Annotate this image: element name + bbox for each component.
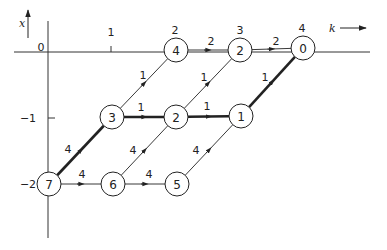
node-n0: 0 bbox=[291, 36, 315, 60]
stage-label: 4 bbox=[299, 22, 306, 35]
edge-weight: 1 bbox=[262, 71, 269, 84]
tick-label: −2 bbox=[20, 178, 36, 191]
edge: 4 bbox=[125, 168, 165, 184]
edge: 1 bbox=[124, 101, 164, 117]
edge: 2 bbox=[188, 35, 228, 50]
node-n2m: 2 bbox=[164, 105, 188, 129]
edge-weight: 1 bbox=[138, 101, 145, 114]
arrow-icon bbox=[142, 150, 145, 153]
stage-label: 3 bbox=[237, 24, 244, 37]
x-axis-label: x bbox=[19, 17, 26, 30]
edge: 1 bbox=[249, 57, 295, 107]
node-label: 2 bbox=[236, 44, 244, 58]
edge-weight: 4 bbox=[146, 168, 153, 181]
node-n1: 1 bbox=[229, 104, 253, 128]
edge: 1 bbox=[188, 100, 229, 117]
edge-weight: 4 bbox=[193, 144, 200, 157]
node-n3: 3 bbox=[100, 105, 124, 129]
edge: 4 bbox=[121, 126, 168, 176]
arrow-icon bbox=[206, 150, 209, 153]
edge-weight: 1 bbox=[204, 100, 211, 113]
edge: 4 bbox=[185, 125, 233, 176]
tick-label: 0 bbox=[38, 41, 45, 54]
arrow-icon bbox=[141, 83, 144, 86]
node-label: 4 bbox=[172, 44, 180, 58]
edge-weight: 4 bbox=[130, 144, 137, 157]
node-n6: 6 bbox=[101, 172, 125, 196]
edge-weight: 1 bbox=[201, 71, 208, 84]
node-label: 0 bbox=[299, 42, 307, 56]
stage-label: 2 bbox=[172, 24, 179, 37]
edge-weight: 2 bbox=[273, 35, 280, 48]
node-label: 3 bbox=[108, 111, 116, 125]
node-label: 7 bbox=[45, 178, 53, 192]
node-label: 5 bbox=[173, 178, 181, 192]
node-n2t: 2 bbox=[228, 38, 252, 62]
edge-weight: 4 bbox=[79, 168, 86, 181]
node-n5: 5 bbox=[165, 172, 189, 196]
node-n4: 4 bbox=[164, 38, 188, 62]
tick-label: −1 bbox=[20, 112, 36, 125]
node-n7: 7 bbox=[37, 172, 61, 196]
edge: 2 bbox=[252, 35, 291, 50]
edge: 4 bbox=[61, 168, 101, 184]
node-label: 6 bbox=[109, 178, 117, 192]
shortest-path-diagram: x k 01−1−2 234 444441111122 765321420 bbox=[0, 0, 387, 250]
stage-labels: 234 bbox=[172, 22, 306, 37]
node-label: 1 bbox=[237, 110, 245, 124]
node-label: 2 bbox=[172, 111, 180, 125]
edge-weight: 2 bbox=[208, 35, 215, 48]
edge-weight: 4 bbox=[65, 143, 72, 156]
tick-label: 1 bbox=[108, 26, 115, 39]
k-axis-label: k bbox=[329, 22, 336, 35]
axes: x k 01−1−2 bbox=[14, 10, 370, 238]
edge-weight: 1 bbox=[140, 69, 147, 82]
